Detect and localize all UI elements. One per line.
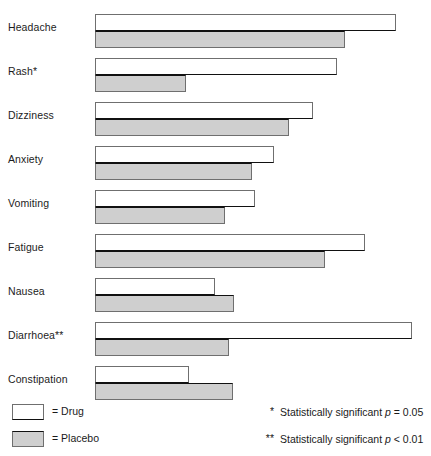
legend-swatch-placebo: [12, 431, 44, 447]
footnote-suffix: < 0.01: [391, 433, 423, 445]
category-label: Constipation: [8, 373, 68, 385]
category-label: Diarrhoea**: [8, 329, 63, 341]
bar-placebo: [95, 383, 233, 400]
chart-row: Anxiety: [0, 143, 431, 181]
legend-item: = Drug: [10, 402, 210, 429]
footnote-text: Statistically significant p = 0.05: [280, 406, 423, 418]
bar-drug: [95, 234, 365, 251]
legend-item: = Placebo: [10, 429, 210, 456]
footnote-text: Statistically significant p < 0.01: [280, 433, 423, 445]
bar-placebo: [95, 339, 229, 356]
bar-placebo: [95, 295, 234, 312]
legend-label: = Placebo: [52, 432, 99, 444]
footnote: *Statistically significant p = 0.05: [258, 402, 431, 429]
bar-placebo: [95, 207, 225, 224]
footnote-marker: *: [258, 405, 274, 417]
legend-swatch-drug: [12, 404, 44, 420]
chart-row: Vomiting: [0, 187, 431, 225]
bar-drug: [95, 146, 274, 163]
category-label: Rash*: [8, 65, 37, 77]
bar-placebo: [95, 163, 252, 180]
bar-drug: [95, 366, 189, 383]
bar-drug: [95, 14, 396, 31]
legend-label: = Drug: [52, 405, 84, 417]
chart-row: Rash*: [0, 55, 431, 93]
category-label: Fatigue: [8, 241, 44, 253]
chart-row: Diarrhoea**: [0, 319, 431, 357]
bar-drug: [95, 278, 215, 295]
side-effects-bar-chart: HeadacheRash*DizzinessAnxietyVomitingFat…: [0, 0, 431, 456]
category-label: Vomiting: [8, 197, 49, 209]
bar-placebo: [95, 31, 345, 48]
category-label: Dizziness: [8, 109, 54, 121]
bar-drug: [95, 190, 255, 207]
bar-placebo: [95, 75, 186, 92]
footnote: **Statistically significant p < 0.01: [258, 429, 431, 456]
chart-row: Constipation: [0, 363, 431, 401]
footnote-prefix: Statistically significant: [280, 406, 385, 418]
footnote-prefix: Statistically significant: [280, 433, 385, 445]
footnote-suffix: = 0.05: [391, 406, 423, 418]
category-label: Headache: [8, 21, 57, 33]
chart-row: Nausea: [0, 275, 431, 313]
chart-legend: = Drug= Placebo: [10, 402, 210, 456]
bar-drug: [95, 58, 337, 75]
chart-row: Headache: [0, 11, 431, 49]
chart-row: Fatigue: [0, 231, 431, 269]
chart-footnotes: *Statistically significant p = 0.05**Sta…: [258, 402, 431, 456]
bar-placebo: [95, 251, 325, 268]
bar-placebo: [95, 119, 289, 136]
category-label: Nausea: [8, 285, 45, 297]
category-label: Anxiety: [8, 153, 43, 165]
bar-drug: [95, 102, 313, 119]
chart-row: Dizziness: [0, 99, 431, 137]
footnote-marker: **: [258, 432, 274, 444]
bar-drug: [95, 322, 412, 339]
